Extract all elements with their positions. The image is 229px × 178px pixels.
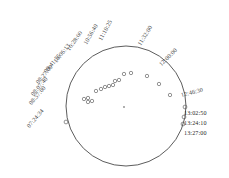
disk-center-marker [123, 106, 125, 108]
figure-background [0, 0, 229, 178]
figure-canvas [0, 0, 229, 178]
solar-disk-figure: 07:24:3408:57:0008:07:4008:27:0009:41:55… [0, 0, 229, 178]
